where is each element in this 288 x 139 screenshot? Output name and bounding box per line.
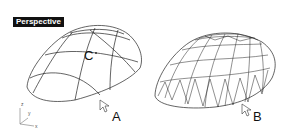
surface-a-wireframe xyxy=(27,25,142,101)
point-c-marker xyxy=(95,52,97,54)
axis-x-label: x xyxy=(35,123,38,129)
surface-b-label: B xyxy=(253,109,262,124)
surface-b-mesh xyxy=(155,33,275,108)
axis-indicator xyxy=(20,108,34,126)
point-c-label: C xyxy=(84,48,93,63)
cursor-arrow-b xyxy=(242,104,251,116)
viewport-title[interactable]: Perspective xyxy=(13,17,64,27)
axis-y-label: y xyxy=(28,110,31,116)
surface-a-label: A xyxy=(112,109,121,124)
perspective-viewport[interactable]: Perspective C A B z y x xyxy=(0,0,288,139)
cursor-arrow-a xyxy=(100,100,109,112)
axis-z-label: z xyxy=(21,101,24,107)
